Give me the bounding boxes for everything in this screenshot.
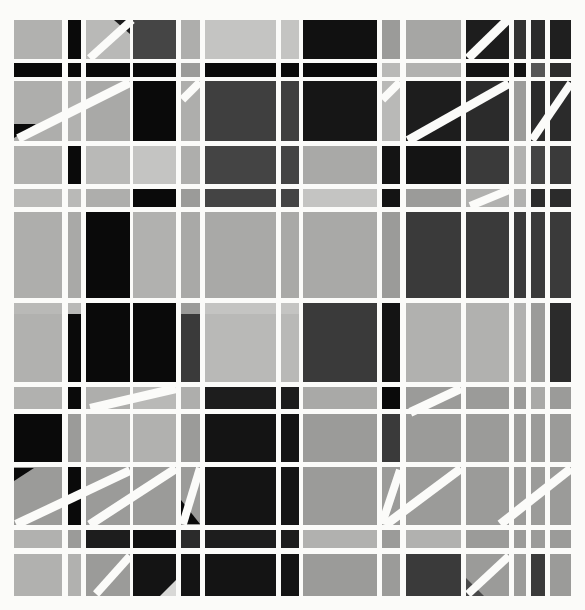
grid-cell xyxy=(406,554,461,596)
grid-cell xyxy=(514,530,526,548)
grid-cell xyxy=(466,530,509,548)
grid-cell xyxy=(382,414,400,462)
grid-cell xyxy=(550,414,571,462)
grid-cell xyxy=(550,314,571,382)
grid-cell xyxy=(531,314,545,382)
grid-cell xyxy=(531,414,545,462)
grid-cell xyxy=(68,530,81,548)
grid-cell xyxy=(303,387,377,409)
grid-cell xyxy=(86,146,130,184)
grid-cell xyxy=(205,146,276,184)
grid-cell xyxy=(466,387,509,409)
grid-cell xyxy=(303,530,377,548)
grid-cell xyxy=(382,20,400,59)
grid-cell xyxy=(281,530,299,548)
grid-cell xyxy=(382,467,400,525)
grid-cell xyxy=(181,314,200,382)
grid-cell xyxy=(531,467,545,525)
grid-cell xyxy=(406,81,461,141)
grid-cell xyxy=(68,554,81,596)
grid-cell xyxy=(466,554,509,596)
grid-cell xyxy=(281,189,299,207)
grid-cell xyxy=(531,387,545,409)
grid-cell xyxy=(550,20,571,59)
grid-cell xyxy=(550,189,571,207)
grid-cell xyxy=(514,81,526,141)
artwork-canvas xyxy=(0,0,585,610)
grid-cell xyxy=(181,554,200,596)
grid-cell xyxy=(14,387,62,409)
grid-cell xyxy=(281,146,299,184)
grid-cell xyxy=(205,20,276,59)
grid-cell xyxy=(514,467,526,525)
grid-cell xyxy=(303,467,377,525)
grid-cell xyxy=(382,212,400,298)
grid-cell xyxy=(406,387,461,409)
grid-cell xyxy=(303,20,377,59)
grid-cell xyxy=(68,387,81,409)
grid-cell xyxy=(514,314,526,382)
grid-cell xyxy=(466,189,509,207)
grid-cell xyxy=(14,467,62,525)
grid-cell xyxy=(550,63,571,77)
grid-cell xyxy=(14,63,62,77)
grid-cell xyxy=(205,81,276,141)
grid-cell xyxy=(531,189,545,207)
grid-cell xyxy=(466,212,509,298)
grid-cell xyxy=(514,414,526,462)
grid-cell xyxy=(531,20,545,59)
grid-cell xyxy=(281,20,299,59)
grid-cell xyxy=(86,314,130,382)
grid-cell xyxy=(514,63,526,77)
grid-cell xyxy=(68,212,81,298)
grid-cell xyxy=(86,81,130,141)
grid-cell xyxy=(205,414,276,462)
grid-cell xyxy=(550,554,571,596)
grid-cell xyxy=(14,20,62,59)
grid-cell xyxy=(133,81,176,141)
grid-cell xyxy=(382,314,400,382)
grid-cell xyxy=(133,20,176,59)
grid-cell xyxy=(550,467,571,525)
grid-cell xyxy=(406,212,461,298)
grid-cell xyxy=(86,414,130,462)
grid-cell xyxy=(181,81,200,141)
grid-cell xyxy=(86,189,130,207)
grid-cell xyxy=(181,530,200,548)
grid-cell xyxy=(550,81,571,141)
grid-cell xyxy=(86,63,130,77)
grid-cell xyxy=(382,387,400,409)
grid-cell xyxy=(181,20,200,59)
grid-cell xyxy=(68,414,81,462)
grid-cell xyxy=(531,63,545,77)
grid-cell xyxy=(466,414,509,462)
grid-cell xyxy=(382,189,400,207)
grid-cell xyxy=(14,146,62,184)
grid-cell xyxy=(382,146,400,184)
grid-cell xyxy=(303,189,377,207)
grid-cell xyxy=(466,467,509,525)
grid-cell xyxy=(205,189,276,207)
grid-cell xyxy=(382,81,400,141)
grid-cell xyxy=(514,554,526,596)
grid-cell xyxy=(68,63,81,77)
grid-cell xyxy=(514,387,526,409)
grid-cell xyxy=(281,467,299,525)
grid-cell xyxy=(205,467,276,525)
grid-cell xyxy=(133,414,176,462)
grid-cell xyxy=(133,212,176,298)
grid-cell xyxy=(281,212,299,298)
grid-cell xyxy=(14,212,62,298)
grid-cell xyxy=(303,414,377,462)
grid-cell xyxy=(14,414,62,462)
grid-cell xyxy=(531,81,545,141)
grid-cell xyxy=(382,63,400,77)
grid-cell xyxy=(514,189,526,207)
grid-cell xyxy=(133,530,176,548)
grid-cell xyxy=(466,81,509,141)
grid-cell xyxy=(550,530,571,548)
grid-cell xyxy=(86,387,130,409)
grid-cell xyxy=(406,63,461,77)
grid-cell xyxy=(406,189,461,207)
grid-cell xyxy=(531,554,545,596)
